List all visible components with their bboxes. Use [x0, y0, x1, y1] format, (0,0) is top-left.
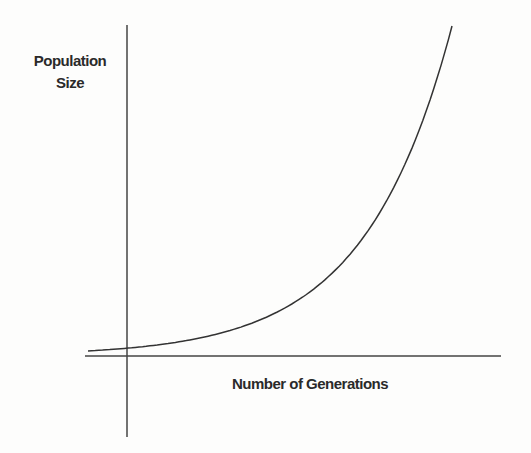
x-axis-label: Number of Generations [200, 375, 420, 392]
y-axis-label-line2: Size [30, 72, 110, 94]
growth-curve [88, 26, 452, 351]
y-axis-label: Population Size [30, 50, 110, 94]
y-axis-label-line1: Population [30, 50, 110, 72]
